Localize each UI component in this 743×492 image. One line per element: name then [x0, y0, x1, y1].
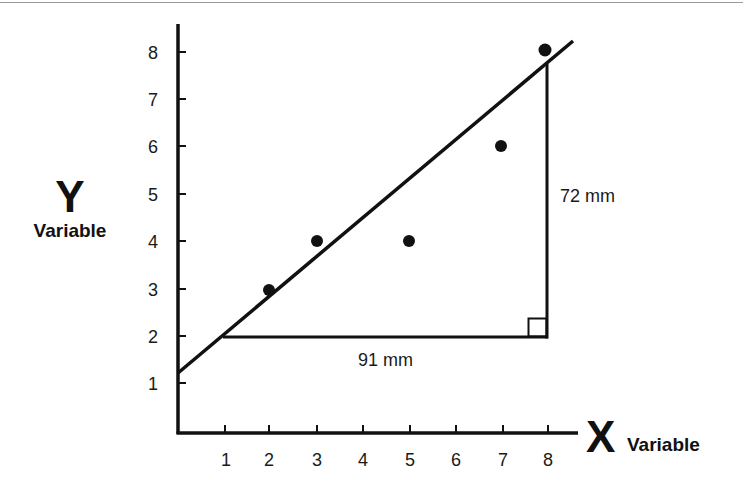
- x-tick-label: 2: [264, 450, 274, 470]
- y-tick-label: 2: [148, 327, 158, 347]
- x-tick-label: 6: [451, 450, 461, 470]
- right-angle-marker: [529, 319, 547, 337]
- x-axis-title: X Variable: [586, 412, 700, 461]
- rise-label: 72 mm: [560, 186, 615, 206]
- y-axis-tick-labels: 1 2 3 4 5 6 7 8: [148, 43, 158, 394]
- y-tick-label: 5: [148, 185, 158, 205]
- data-point: [403, 235, 415, 247]
- x-tick-label: 1: [221, 450, 231, 470]
- y-axis-word: Variable: [34, 220, 107, 241]
- y-tick-label: 1: [148, 374, 158, 394]
- x-axis-tick-labels: 1 2 3 4 5 6 7 8: [221, 450, 553, 470]
- x-axis-word: Variable: [627, 434, 700, 455]
- y-axis-letter: Y: [55, 172, 84, 221]
- x-tick-label: 4: [358, 450, 368, 470]
- data-points: [263, 44, 552, 297]
- data-point: [263, 284, 275, 296]
- y-axis-title: Y Variable: [34, 172, 107, 241]
- slope-triangle: 72 mm 91 mm: [223, 64, 615, 370]
- data-point: [311, 235, 323, 247]
- x-tick-label: 3: [312, 450, 322, 470]
- y-tick-label: 4: [148, 232, 158, 252]
- x-tick-label: 5: [405, 450, 415, 470]
- run-label: 91 mm: [358, 350, 413, 370]
- x-axis-letter: X: [586, 412, 615, 461]
- scatter-plot-with-slope-triangle: 1 2 3 4 5 6 7 8 1 2 3 4 5 6 7 8 Y Variab…: [0, 0, 743, 492]
- data-point: [539, 44, 552, 57]
- trend-line: [178, 41, 573, 373]
- x-tick-label: 8: [543, 450, 553, 470]
- y-tick-label: 8: [148, 43, 158, 63]
- y-tick-label: 3: [148, 280, 158, 300]
- y-tick-label: 7: [148, 90, 158, 110]
- y-tick-label: 6: [148, 137, 158, 157]
- x-tick-label: 7: [498, 450, 508, 470]
- data-point: [495, 140, 507, 152]
